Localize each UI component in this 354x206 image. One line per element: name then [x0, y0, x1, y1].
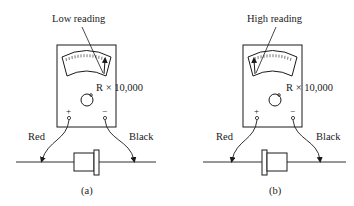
- minus-terminal: [103, 116, 106, 119]
- plus-terminal-label: +: [66, 106, 71, 116]
- leader-line: [82, 27, 103, 73]
- red-lead-wire: [232, 120, 257, 160]
- range-knob: [269, 94, 281, 106]
- panel-caption: (a): [81, 185, 93, 197]
- range-label: R × 10,000: [96, 82, 143, 93]
- scale-ticks: [66, 54, 105, 61]
- scale-ticks: [255, 54, 291, 61]
- black-lead-label: Black: [316, 131, 341, 142]
- minus-terminal: [291, 116, 294, 119]
- reading-label: Low reading: [52, 13, 106, 24]
- diode-ohmmeter-test-diagram: Low reading R × 10,000: [0, 0, 354, 206]
- panel-b: High reading R × 10,000 + −: [203, 13, 346, 197]
- diode-cathode-band: [94, 150, 99, 175]
- black-lead-label: Black: [129, 131, 154, 142]
- range-knob: [81, 94, 93, 106]
- meter-needle: [104, 60, 105, 74]
- red-lead-label: Red: [28, 131, 46, 142]
- red-lead-wire: [42, 120, 69, 160]
- diode-body: [74, 153, 94, 171]
- panel-a: Low reading R × 10,000: [16, 13, 156, 197]
- plus-terminal: [67, 116, 70, 119]
- diode-body: [267, 153, 287, 171]
- diode-cathode-band: [262, 150, 267, 175]
- red-lead-label: Red: [216, 131, 234, 142]
- minus-terminal-label: −: [290, 106, 295, 116]
- panel-caption: (b): [269, 185, 282, 197]
- meter-needle: [254, 60, 255, 74]
- reading-label: High reading: [247, 13, 303, 24]
- range-label: R × 10,000: [286, 82, 333, 93]
- plus-terminal: [255, 116, 258, 119]
- minus-terminal-label: −: [102, 106, 107, 116]
- plus-terminal-label: +: [254, 106, 259, 116]
